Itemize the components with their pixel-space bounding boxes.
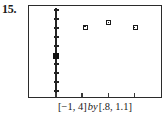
y-axis-tick (54, 27, 59, 29)
y-axis-tick (54, 90, 59, 92)
y-axis-tick (54, 72, 59, 74)
x-axis-tick (134, 93, 136, 97)
data-point-marker (106, 20, 111, 25)
x-axis-tick (81, 93, 83, 97)
data-point-marker (83, 25, 88, 30)
y-axis-tick (54, 81, 59, 83)
y-axis-tick (54, 63, 59, 65)
x-axis-tick (55, 93, 57, 97)
data-point-core (108, 22, 109, 23)
y-axis-tick (54, 18, 59, 20)
data-point-marker (53, 53, 59, 59)
viewing-window-caption: [−1, 4]by[.8, 1.1] (28, 101, 162, 113)
caption-x-window: [−1, 4] (58, 101, 87, 112)
caption-y-window: [.8, 1.1] (99, 101, 132, 112)
y-axis-tick (54, 9, 59, 11)
data-point-marker (133, 25, 138, 30)
plot-area (29, 6, 161, 97)
y-axis-tick (54, 45, 59, 47)
y-axis-tick (54, 36, 59, 38)
caption-connector: by (87, 101, 99, 112)
data-point-core (84, 26, 85, 27)
problem-number: 15. (2, 3, 16, 15)
plot-frame (28, 5, 162, 98)
x-axis-tick (108, 93, 110, 97)
data-point-core (134, 27, 135, 28)
